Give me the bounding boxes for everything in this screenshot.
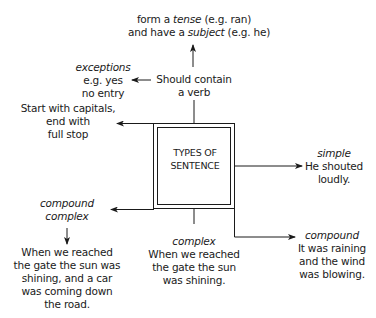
simple-example-line: He shouted bbox=[302, 160, 366, 173]
compound-example-line: and the wind bbox=[295, 255, 369, 268]
exceptions-line: no entry bbox=[72, 87, 134, 100]
compound-example-line: It was raining bbox=[295, 242, 369, 255]
compound-complex-example-line: the gate the sun was bbox=[12, 259, 122, 272]
text-fragment: and have a bbox=[128, 26, 188, 38]
node-should-contain-verb: Should contain a verb bbox=[153, 73, 235, 99]
complex-label: complex bbox=[146, 235, 242, 248]
compound-complex-label-line: complex bbox=[30, 210, 104, 223]
subject-line: and have a subject (e.g. he) bbox=[128, 26, 260, 39]
complex-example-line: the gate the sun bbox=[146, 261, 242, 274]
verb-line: Should contain bbox=[153, 73, 235, 86]
text-fragment: (e.g. ran) bbox=[201, 13, 251, 25]
compound-complex-example-line: the road. bbox=[12, 298, 122, 311]
node-simple: simple He shouted loudly. bbox=[302, 147, 366, 186]
term-subject: subject bbox=[188, 26, 225, 38]
node-capitals-full-stop: Start with capitals, end with full stop bbox=[20, 102, 116, 141]
simple-example-line: loudly. bbox=[302, 173, 366, 186]
exceptions-label: exceptions bbox=[72, 61, 134, 74]
center-box-label: TYPES OF SENTENCE bbox=[163, 146, 227, 172]
center-label-line: TYPES bbox=[173, 147, 201, 158]
compound-complex-label-line: compound bbox=[30, 197, 104, 210]
exceptions-line: e.g. yes bbox=[72, 74, 134, 87]
simple-label: simple bbox=[302, 147, 366, 160]
verb-line: a verb bbox=[153, 86, 235, 99]
node-compound-complex-label: compound complex bbox=[30, 197, 104, 223]
node-tense-subject: form a tense (e.g. ran) and have a subje… bbox=[128, 13, 260, 39]
complex-example-line: was shining. bbox=[146, 274, 242, 287]
node-compound-complex-example: When we reached the gate the sun was shi… bbox=[12, 246, 122, 311]
node-complex: complex When we reached the gate the sun… bbox=[146, 235, 242, 287]
capitals-line: full stop bbox=[20, 128, 116, 141]
tense-line: form a tense (e.g. ran) bbox=[128, 13, 260, 26]
capitals-line: Start with capitals, bbox=[20, 102, 116, 115]
node-exceptions: exceptions e.g. yes no entry bbox=[72, 61, 134, 100]
compound-label: compound bbox=[295, 229, 369, 242]
capitals-line: end with bbox=[20, 115, 116, 128]
arrow-box-to-compound bbox=[235, 123, 296, 237]
compound-complex-example-line: was coming down bbox=[12, 285, 122, 298]
compound-complex-example-line: shining, and a car bbox=[12, 272, 122, 285]
complex-example-line: When we reached bbox=[146, 248, 242, 261]
text-fragment: (e.g. he) bbox=[224, 26, 270, 38]
compound-example-line: was blowing. bbox=[295, 268, 369, 281]
text-fragment: form a bbox=[137, 13, 173, 25]
center-label-line: OF bbox=[204, 147, 217, 158]
node-compound: compound It was raining and the wind was… bbox=[295, 229, 369, 281]
compound-complex-example-line: When we reached bbox=[12, 246, 122, 259]
sentence-types-diagram: TYPES OF SENTENCE form a tense (e.g. ran… bbox=[0, 0, 376, 318]
center-label-line: SENTENCE bbox=[170, 160, 219, 171]
term-tense: tense bbox=[173, 13, 201, 25]
